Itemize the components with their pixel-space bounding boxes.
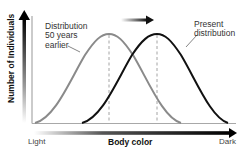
present-distribution-curve (82, 34, 228, 123)
y-axis-arrow-icon (19, 10, 31, 123)
earlier-distribution-label: Distribution 50 years earlier (45, 22, 88, 50)
x-axis-title: Body color (108, 138, 152, 147)
present-distribution-label: Present distribution (194, 20, 235, 39)
y-axis-title: Number of Individuals (7, 14, 16, 103)
shift-arrow-icon (121, 16, 154, 25)
x-axis-left-label: Light (28, 138, 45, 147)
present-label-line-2: distribution (194, 29, 235, 38)
x-axis-right-label: Dark (219, 138, 236, 147)
earlier-label-line-3: earlier (45, 41, 88, 50)
